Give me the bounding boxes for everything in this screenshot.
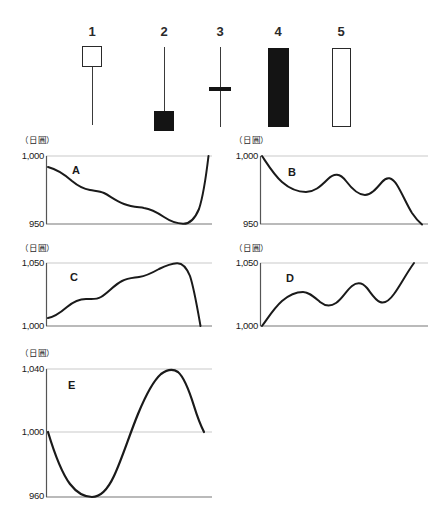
chart-D-unit-label: （日圓） — [234, 241, 269, 253]
candlestick-3-number: 3 — [190, 24, 250, 39]
chart-A-ytick-top: 1,000 — [0, 150, 44, 161]
candlestick-1: 1 — [62, 24, 122, 136]
candlestick-diagram: 1 2 3 4 5 — [0, 24, 433, 136]
chart-A-plot — [44, 151, 212, 231]
candlestick-2-number: 2 — [134, 24, 194, 39]
chart-A-line — [48, 156, 209, 224]
chart-A-unit-label: （日圓） — [20, 133, 55, 145]
chart-A: （日圓） 1,000 950 A — [0, 133, 215, 237]
chart-D-plot — [258, 258, 428, 334]
candlestick-1-number: 1 — [62, 24, 122, 39]
chart-B-line — [262, 156, 422, 225]
top-caption — [44, 0, 414, 11]
candlestick-4-number: 4 — [248, 24, 308, 39]
chart-C-plot — [44, 258, 212, 334]
candlestick-4-body — [268, 48, 289, 127]
chart-D-ytick-top: 1,050 — [214, 257, 258, 268]
chart-C: （日圓） 1,050 1,000 C — [0, 241, 215, 341]
candlestick-4: 4 — [248, 24, 308, 136]
chart-E-unit-label: （日圓） — [20, 346, 55, 358]
candlestick-2-body — [154, 111, 174, 131]
candlestick-5: 5 — [311, 24, 371, 136]
chart-C-ytick-top: 1,050 — [0, 257, 44, 268]
chart-B-plot — [258, 151, 428, 231]
candlestick-3: 3 — [190, 24, 250, 136]
chart-E: （日圓） 1,040 1,000 960 E — [0, 346, 215, 518]
candlestick-3-body — [209, 87, 231, 91]
chart-B-unit-label: （日圓） — [234, 133, 269, 145]
chart-E-ytick-mid: 1,000 — [0, 426, 44, 437]
chart-E-ytick-bottom: 960 — [0, 490, 44, 501]
chart-C-line — [48, 263, 201, 326]
chart-D: （日圓） 1,050 1,000 D — [214, 241, 433, 341]
chart-E-ytick-top: 1,040 — [0, 363, 44, 374]
candlestick-2: 2 — [134, 24, 194, 136]
chart-E-line — [48, 370, 204, 497]
chart-C-ytick-bottom: 1,000 — [0, 320, 44, 331]
chart-A-ytick-bottom: 950 — [0, 218, 44, 229]
chart-D-ytick-bottom: 1,000 — [214, 320, 258, 331]
chart-E-plot — [44, 364, 212, 504]
chart-B-ytick-bottom: 950 — [214, 218, 258, 229]
candlestick-5-number: 5 — [311, 24, 371, 39]
chart-D-line — [262, 263, 414, 326]
chart-B-ytick-top: 1,000 — [214, 150, 258, 161]
chart-C-unit-label: （日圓） — [20, 241, 55, 253]
candlestick-5-body — [332, 48, 351, 127]
chart-B: （日圓） 1,000 950 B — [214, 133, 433, 237]
candlestick-1-body — [82, 46, 102, 67]
